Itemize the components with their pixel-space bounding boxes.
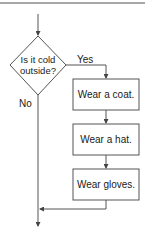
decision-line1: Is it cold [21,54,56,65]
decision-line2: outside? [20,65,56,76]
yes-arrow [66,65,106,78]
flowchart: Is it cold outside? Yes No Wear a coat. … [0,0,145,235]
step-label-gloves: Wear gloves. [73,179,139,190]
yes-label: Yes [77,54,93,65]
decision-text: Is it cold outside? [14,54,62,76]
flowchart-lines [0,0,145,235]
merge-arrow [40,200,106,209]
step-label-coat: Wear a coat. [73,89,139,100]
no-label: No [19,98,32,109]
step-label-hat: Wear a hat. [73,134,139,145]
